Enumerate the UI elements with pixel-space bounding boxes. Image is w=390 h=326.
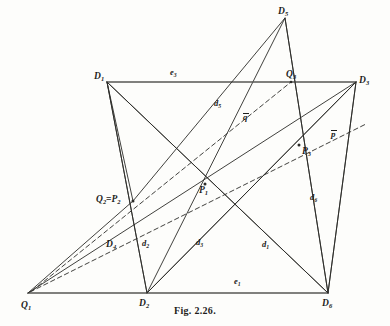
geometry-diagram [0, 0, 390, 326]
edge-label-d5: d5 [214, 99, 221, 108]
construction-chords [107, 18, 356, 293]
segment-d3-q1 [28, 82, 356, 293]
point-label-D4: D4 [106, 240, 116, 250]
segment-d1-d6 [107, 82, 328, 293]
figure-caption: Fig. 2.26. [0, 305, 390, 316]
line-label-q-bar: q [243, 113, 248, 122]
point-label-P3: P3 [302, 147, 311, 157]
segment-q1-d1-ext [28, 201, 133, 293]
segment-d1-d2 [107, 82, 147, 293]
edge-label-d3: d3 [196, 238, 203, 247]
segment-d3-d6 [328, 82, 356, 293]
point-label-Q3: Q3 [286, 70, 296, 80]
figure-container: D1 D3 D5 Q3 P3 P1 Q2=P2 D4 Q1 D2 D6 e3 e… [0, 0, 390, 326]
point-label-Q2-equals-P2: Q2=P2 [96, 195, 121, 205]
line-p-bar [30, 124, 366, 292]
segment-d2-d3 [147, 82, 356, 293]
edge-label-d6: d6 [310, 193, 317, 202]
edge-label-e1: e1 [234, 277, 241, 286]
edge-label-e3: e3 [170, 68, 177, 77]
segment-d5 [133, 18, 285, 201]
edge-label-d1: d1 [262, 240, 269, 249]
point-label-D5: D5 [278, 7, 288, 17]
segment-d1-q1 [107, 82, 133, 201]
line-label-p-bar: p [331, 130, 336, 139]
chord-D5-D2 [147, 18, 285, 293]
point-label-P1: P1 [199, 186, 208, 196]
point-label-D1: D1 [94, 72, 104, 82]
edge-label-d2: d2 [142, 239, 149, 248]
point-label-D3: D3 [359, 76, 369, 86]
